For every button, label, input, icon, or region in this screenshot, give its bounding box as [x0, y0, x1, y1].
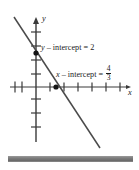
fraction-numerator: 4: [106, 65, 112, 73]
x-intercept-equals: =: [99, 70, 104, 79]
bottom-rule-bar: [8, 156, 133, 162]
x-axis: [10, 82, 131, 93]
y-axis: [31, 17, 41, 142]
y-intercept-word: intercept: [53, 43, 82, 52]
x-intercept-word: intercept: [68, 70, 97, 79]
y-intercept-annotation: y – intercept = 2: [41, 44, 94, 52]
x-axis-label: x: [128, 89, 132, 97]
x-intercept-dash: –: [62, 70, 66, 79]
y-axis-label: y: [42, 15, 46, 23]
coordinate-plane: [0, 0, 139, 170]
y-intercept-variable: y: [41, 43, 45, 52]
fraction-denominator: 3: [106, 73, 112, 82]
x-intercept-fraction: 4 3: [106, 65, 112, 82]
y-intercept-point: [33, 50, 38, 55]
plotted-line: [14, 17, 100, 148]
y-intercept-equals: =: [84, 43, 89, 52]
graph-figure: y x y – intercept = 2 x – intercept = 4 …: [0, 0, 139, 170]
y-intercept-value: 2: [90, 43, 94, 52]
y-axis-arrow: [33, 17, 39, 24]
x-intercept-annotation: x – intercept = 4 3: [56, 65, 111, 82]
x-intercept-variable: x: [56, 70, 60, 79]
x-intercept-point: [53, 84, 58, 89]
y-intercept-dash: –: [47, 43, 51, 52]
